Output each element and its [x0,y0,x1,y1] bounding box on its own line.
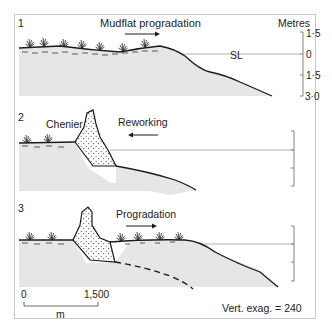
grass-icon [78,40,87,48]
grass-icon [23,135,32,143]
grass-icon [119,43,128,51]
grass-icon [44,134,53,142]
scale-start-label: 0 [21,290,27,300]
chenier-cross-sections [0,0,332,331]
panel-number-3: 3 [18,203,24,214]
axis-tick-1-5: 1·5 [306,29,320,39]
grass-icon [40,38,49,46]
grass-icon [156,232,165,240]
grass-icon [134,232,143,240]
axis-tick-neg-3-0: 3·0 [305,92,319,102]
vertical-exaggeration-label: Vert. exag. = 240 [222,303,302,314]
grass-icon [141,39,150,47]
grass-icon [48,232,57,240]
sea-level-label: SL [230,50,243,61]
scale-end-label: 1,500 [84,290,109,300]
axis-tick-0: 0 [306,50,312,60]
chenier-label: Chenier [46,119,83,130]
reworking-label: Reworking [118,117,168,128]
axis-title: Metres [278,18,310,29]
depth-axis [291,131,294,186]
grass-icon [26,232,35,240]
axis-tick-neg-1-5: 1·5 [306,71,320,81]
panel-number-2: 2 [18,112,24,123]
scale-bar [24,302,98,306]
depth-axis [300,32,303,96]
panel-1 [19,32,303,97]
grass-icon [26,39,35,47]
progradation-label: Progradation [116,209,176,220]
grass-icon [96,42,105,50]
mudflat-progradation-label: Mudflat progradation [100,18,201,29]
grass-icon [117,233,126,241]
panel-number-1: 1 [18,18,24,29]
scale-unit-label: m [56,309,65,320]
depth-axis [291,226,294,281]
grass-icon [175,232,184,240]
